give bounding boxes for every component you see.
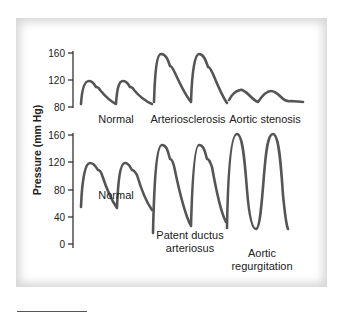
waveform-normal-top bbox=[81, 81, 152, 104]
footnote-rule bbox=[17, 311, 87, 312]
waveform-arteriosclerosis bbox=[154, 54, 227, 103]
label-pda-line1: Patent ductus bbox=[156, 229, 224, 241]
label-arteriosclerosis: Arteriosclerosis bbox=[150, 113, 226, 125]
y-axis-title: Pressure (mm Hg) bbox=[31, 105, 43, 195]
top-y-axis bbox=[68, 51, 73, 108]
bottom-y-axis bbox=[68, 133, 73, 248]
label-ar-line1: Aortic bbox=[248, 247, 277, 259]
waveform-aortic-regurgitation bbox=[227, 134, 288, 229]
waveform-normal-bottom bbox=[81, 163, 152, 210]
bottom-tick-160: 160 bbox=[48, 130, 65, 141]
label-normal-top: Normal bbox=[98, 113, 133, 125]
bottom-tick-0: 0 bbox=[59, 239, 65, 250]
top-tick-80: 80 bbox=[54, 102, 66, 113]
label-aortic-stenosis: Aortic stenosis bbox=[229, 113, 301, 125]
bottom-tick-40: 40 bbox=[54, 212, 66, 223]
waveform-patent-ductus-arteriosus bbox=[153, 145, 226, 233]
waveform-aortic-stenosis bbox=[229, 90, 303, 102]
label-normal-bottom: Normal bbox=[98, 189, 133, 201]
bottom-tick-120: 120 bbox=[48, 157, 65, 168]
label-pda-line2: arteriosus bbox=[166, 242, 215, 254]
top-tick-120: 120 bbox=[48, 75, 65, 86]
label-ar-line2: regurgitation bbox=[231, 260, 292, 272]
pressure-waveform-figure: Pressure (mm Hg) 160 120 80 Normal Arter… bbox=[0, 0, 340, 313]
bottom-tick-80: 80 bbox=[54, 185, 66, 196]
top-tick-160: 160 bbox=[48, 48, 65, 59]
